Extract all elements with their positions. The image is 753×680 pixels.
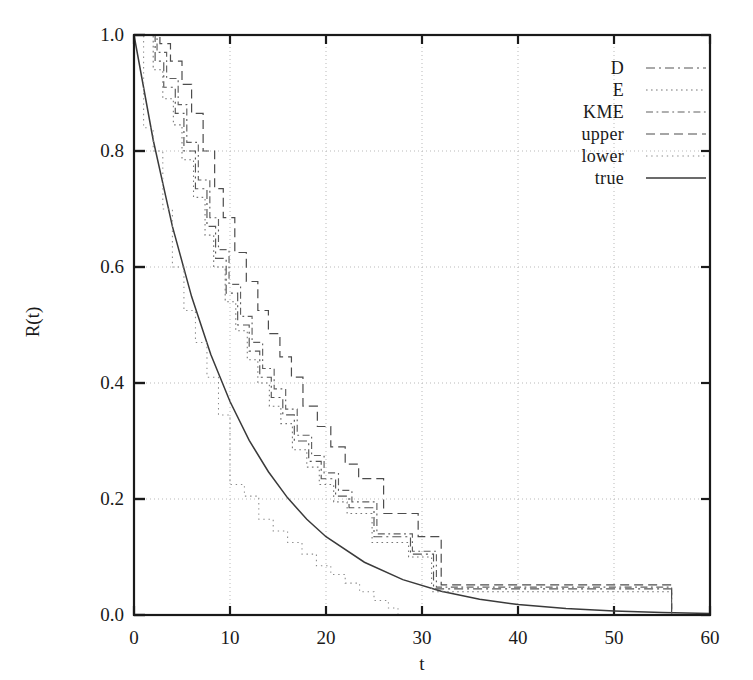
x-tick-label: 20	[317, 627, 336, 649]
legend-label-true: true	[494, 168, 624, 189]
x-tick-label: 0	[129, 627, 139, 649]
y-tick-label: 0.8	[56, 140, 124, 162]
legend-sample-lines	[646, 68, 706, 178]
y-tick-label: 0.0	[56, 604, 124, 626]
legend-label-KME: KME	[494, 102, 624, 123]
y-tick-label: 0.2	[56, 488, 124, 510]
legend-label-E: E	[494, 80, 624, 101]
y-axis-label: R(t)	[22, 307, 44, 338]
legend-label-lower: lower	[494, 146, 624, 167]
legend-label-upper: upper	[494, 124, 624, 145]
y-tick-label: 0.4	[56, 372, 124, 394]
y-tick-label: 0.6	[56, 256, 124, 278]
x-tick-label: 50	[605, 627, 624, 649]
x-tick-label: 30	[413, 627, 432, 649]
x-tick-label: 60	[701, 627, 720, 649]
x-tick-label: 10	[221, 627, 240, 649]
y-tick-label: 1.0	[56, 24, 124, 46]
x-axis-label: t	[419, 653, 424, 675]
legend-label-D: D	[494, 58, 624, 79]
x-tick-label: 40	[509, 627, 528, 649]
plot-canvas	[0, 0, 753, 680]
chart-figure: 0.00.20.40.60.81.00102030405060R(t)tDEKM…	[0, 0, 753, 680]
